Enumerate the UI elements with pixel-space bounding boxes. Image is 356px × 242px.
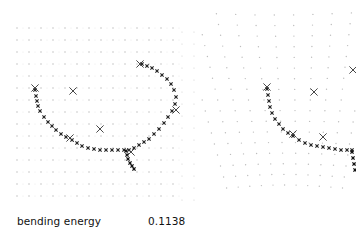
grid-dot xyxy=(308,164,309,165)
grid-dot xyxy=(160,195,161,196)
grid-dot xyxy=(100,111,101,112)
grid-dot xyxy=(272,184,273,185)
grid-dot xyxy=(16,183,17,184)
grid-dot xyxy=(160,111,161,112)
grid-dot xyxy=(28,159,29,160)
grid-dot xyxy=(293,25,294,26)
grid-dot xyxy=(76,99,77,100)
grid-dot xyxy=(52,51,53,52)
grid-dot xyxy=(76,135,77,136)
grid-dot xyxy=(112,27,113,28)
grid-dot xyxy=(347,45,348,46)
grid-dot xyxy=(312,35,313,36)
grid-dot xyxy=(148,171,149,172)
grid-dot xyxy=(232,165,233,166)
grid-dot xyxy=(76,111,77,112)
grid-dot xyxy=(136,183,137,184)
grid-dot xyxy=(245,78,246,79)
grid-dot xyxy=(28,123,29,124)
grid-dot xyxy=(40,135,41,136)
grid-dot xyxy=(76,51,77,52)
grid-dot xyxy=(100,195,101,196)
grid-dot xyxy=(309,131,310,132)
grid-dot xyxy=(227,143,228,144)
grid-dot xyxy=(124,27,125,28)
grid-dot xyxy=(207,56,208,57)
grid-dot xyxy=(238,186,239,187)
grid-dot xyxy=(28,87,29,88)
grid-dot xyxy=(349,143,350,144)
grid-dot xyxy=(237,24,238,25)
grid-dot xyxy=(293,46,294,47)
grid-dot xyxy=(160,27,161,28)
grid-dot xyxy=(330,186,331,187)
grid-dot xyxy=(112,183,113,184)
grid-dot xyxy=(172,39,173,40)
grid-dot xyxy=(28,183,29,184)
grid-dot xyxy=(16,159,17,160)
grid-dot xyxy=(278,89,279,90)
landmark-markers xyxy=(31,60,356,155)
grid-dot xyxy=(253,131,254,132)
grid-dot xyxy=(76,39,77,40)
grid-dot xyxy=(230,154,231,155)
grid-dot xyxy=(76,147,77,148)
grid-dot xyxy=(136,123,137,124)
grid-dot xyxy=(28,171,29,172)
grid-dot xyxy=(295,184,296,185)
grid-dot xyxy=(148,195,149,196)
grid-dot xyxy=(351,132,352,133)
grid-dot xyxy=(124,111,125,112)
grid-dot xyxy=(88,99,89,100)
grid-dot xyxy=(282,152,283,153)
grid-dot xyxy=(327,67,328,68)
grid-dot xyxy=(311,57,312,58)
grid-dot xyxy=(295,142,296,143)
grid-dot xyxy=(216,13,217,14)
grid-dot xyxy=(88,39,89,40)
grid-dot xyxy=(331,24,332,25)
grid-dot xyxy=(269,153,270,154)
grid-dot xyxy=(64,111,65,112)
grid-dot xyxy=(222,121,223,122)
grid-dot xyxy=(112,99,113,100)
grid-dot xyxy=(228,78,229,79)
grid-dot xyxy=(148,183,149,184)
grid-dot xyxy=(16,111,17,112)
grid-dot xyxy=(100,123,101,124)
grid-dot xyxy=(112,87,113,88)
grid-dot xyxy=(243,153,244,154)
grid-dot xyxy=(136,27,137,28)
grid-dot xyxy=(309,121,310,122)
grid-dot xyxy=(148,147,149,148)
grid-dot xyxy=(319,175,320,176)
grid-dot xyxy=(274,25,275,26)
grid-dot xyxy=(124,183,125,184)
grid-dot xyxy=(88,27,89,28)
grid-dot xyxy=(16,99,17,100)
grid-dot xyxy=(76,159,77,160)
grid-dot xyxy=(88,63,89,64)
grid-dot xyxy=(235,176,236,177)
grid-dot xyxy=(344,67,345,68)
grid-dot xyxy=(347,154,348,155)
grid-dot xyxy=(148,159,149,160)
grid-dot xyxy=(283,174,284,175)
grid-dot xyxy=(284,184,285,185)
grid-dot xyxy=(351,12,352,13)
grid-dot xyxy=(112,63,113,64)
grid-dot xyxy=(324,110,325,111)
grid-dot xyxy=(16,39,17,40)
grid-dot xyxy=(160,183,161,184)
grid-dot xyxy=(241,142,242,143)
bending-energy-label: bending energy xyxy=(17,215,101,227)
grid-dot xyxy=(208,121,209,122)
grid-dot xyxy=(341,99,342,100)
grid-dot xyxy=(262,89,263,90)
grid-dot xyxy=(335,143,336,144)
grid-dot xyxy=(124,195,125,196)
grid-dot xyxy=(172,195,173,196)
grid-dot xyxy=(88,183,89,184)
grid-dot xyxy=(124,75,125,76)
grid-dot xyxy=(279,110,280,111)
